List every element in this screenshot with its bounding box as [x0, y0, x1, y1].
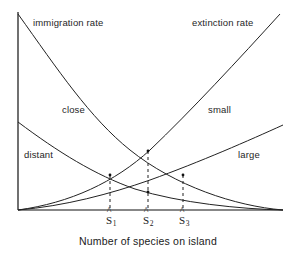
hat-accent-s1: ^	[107, 208, 112, 214]
hat-accent-s2: ^	[144, 208, 149, 214]
x-tick-label-s3: ^S3	[179, 214, 189, 226]
tick-subscript-s1: 1	[113, 219, 117, 228]
tick-subscript-s2: 2	[150, 219, 154, 228]
equilibrium-point-s2-lower	[147, 191, 150, 194]
label-close: close	[62, 104, 85, 115]
label-small: small	[208, 104, 231, 115]
x-axis-title: Number of species on island	[0, 235, 296, 247]
equilibrium-point-s2-upper	[147, 150, 150, 153]
label-extinction-rate: extinction rate	[192, 17, 253, 28]
island-biogeography-figure: immigration rate extinction rate close s…	[0, 0, 296, 262]
equilibrium-point-s1	[109, 174, 112, 177]
x-tick-label-s2: ^S2	[143, 214, 153, 226]
hat-accent-s3: ^	[180, 208, 185, 214]
curve-close-immigration	[18, 14, 283, 210]
label-distant: distant	[24, 149, 53, 160]
curve-distant-immigration	[18, 122, 283, 210]
tick-subscript-s3: 3	[186, 219, 190, 228]
x-tick-label-s1: ^S1	[106, 214, 116, 226]
label-large: large	[238, 149, 260, 160]
label-immigration-rate: immigration rate	[33, 17, 104, 28]
equilibrium-point-s3	[182, 174, 185, 177]
curve-large-extinction	[18, 125, 283, 210]
